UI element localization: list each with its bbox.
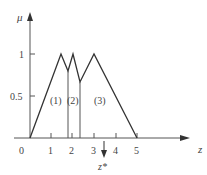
- x-tick-label-0: 0: [19, 145, 24, 156]
- membership-outline: [30, 54, 137, 138]
- membership-diagram: μ z 1 0.5 0 1 2 3 4 5 (1) (2) (3) z*: [0, 0, 207, 175]
- x-tick-label-3: 3: [91, 145, 96, 156]
- x-tick-label-4: 4: [113, 145, 118, 156]
- x-axis-arrow-icon: [180, 135, 190, 141]
- y-tick-label-1: 1: [19, 49, 24, 60]
- y-axis-arrow-icon: [27, 12, 33, 21]
- z-star-arrow-icon: [101, 150, 107, 158]
- region-label-3: (3): [94, 95, 106, 107]
- x-tick-label-1: 1: [48, 145, 53, 156]
- x-tick-label-5: 5: [134, 145, 139, 156]
- region-label-2: (2): [67, 95, 79, 107]
- x-tick-label-2: 2: [69, 145, 74, 156]
- y-axis-label: μ: [16, 11, 23, 23]
- y-tick-label-0.5: 0.5: [10, 91, 23, 102]
- x-axis-label: z: [197, 143, 203, 155]
- z-star-label: z*: [97, 161, 107, 172]
- region-label-1: (1): [50, 95, 62, 107]
